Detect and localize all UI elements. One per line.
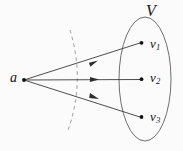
vertex-dot-a bbox=[22, 78, 26, 82]
arrowhead-edge-3 bbox=[89, 93, 99, 99]
target-label-v3-base: v bbox=[150, 109, 156, 124]
arrowhead-edge-2 bbox=[90, 77, 99, 82]
source-label-a: a bbox=[10, 71, 17, 85]
vertex-dot-v2 bbox=[140, 77, 144, 81]
dashed-arc bbox=[67, 30, 77, 133]
set-ellipse-v bbox=[119, 17, 171, 141]
vertex-dot-v3 bbox=[140, 115, 144, 119]
diagram-figure: V a v1 v2 v3 bbox=[0, 0, 183, 151]
vertex-dot-v1 bbox=[140, 41, 144, 45]
target-label-v2-subscript: 2 bbox=[156, 76, 160, 86]
edge-a-to-v3 bbox=[24, 80, 140, 117]
edge-a-to-v1 bbox=[24, 43, 140, 80]
edge-a-to-v2 bbox=[24, 77, 140, 82]
target-label-v1: v1 bbox=[150, 37, 160, 51]
target-label-v1-subscript: 1 bbox=[156, 42, 160, 52]
arrowhead-edge-1 bbox=[89, 60, 98, 66]
target-label-v2-base: v bbox=[150, 70, 156, 85]
target-label-v3-subscript: 3 bbox=[156, 115, 160, 125]
target-label-v2: v2 bbox=[150, 71, 160, 85]
target-label-v1-base: v bbox=[150, 36, 156, 51]
set-label-v: V bbox=[146, 3, 156, 19]
target-label-v3: v3 bbox=[150, 110, 160, 124]
